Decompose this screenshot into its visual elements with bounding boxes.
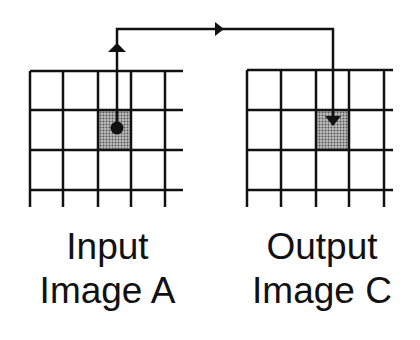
mapping-connector — [108, 22, 341, 135]
input-image-label: Input Image A — [20, 225, 195, 313]
arrow-up-icon — [108, 43, 126, 52]
input-label-line2: Image A — [20, 269, 195, 313]
arrow-right-icon — [215, 22, 224, 36]
input-grid — [30, 71, 183, 207]
input-label-line1: Input — [20, 225, 195, 269]
output-image-label: Output Image C — [236, 225, 408, 313]
source-dot-icon — [111, 122, 124, 135]
output-label-line2: Image C — [236, 269, 408, 313]
output-label-line1: Output — [236, 225, 408, 269]
output-grid — [247, 70, 393, 207]
